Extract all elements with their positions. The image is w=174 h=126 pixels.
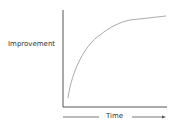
chart-canvas [0, 0, 174, 126]
improvement-curve [68, 16, 166, 98]
arrow-right-icon [162, 116, 166, 119]
